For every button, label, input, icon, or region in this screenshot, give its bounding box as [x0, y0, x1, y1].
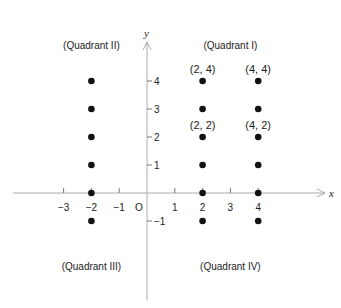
x-tick-label: 1 — [172, 202, 178, 213]
origin-label: O — [135, 202, 143, 213]
ticks: O−3−2−112344321−1 — [58, 76, 262, 227]
quadrant-label: (Quadrant IV) — [200, 261, 261, 272]
point-label: (2, 4) — [190, 63, 216, 75]
data-point — [255, 190, 262, 197]
y-axis-label: y — [143, 27, 149, 39]
data-point — [255, 106, 262, 113]
data-point — [199, 190, 206, 197]
data-point — [88, 190, 95, 197]
data-point — [88, 162, 95, 169]
y-tick-label: 2 — [154, 132, 160, 143]
point-label: (4, 4) — [245, 63, 271, 75]
data-point — [88, 218, 95, 225]
data-point — [88, 106, 95, 113]
x-tick-label: 3 — [228, 202, 234, 213]
x-axis-label: x — [328, 187, 334, 199]
quadrant-label: (Quadrant III) — [62, 261, 121, 272]
quadrant-label: (Quadrant I) — [203, 40, 257, 51]
data-point — [255, 134, 262, 141]
x-tick-label: −3 — [58, 202, 70, 213]
data-point — [199, 162, 206, 169]
data-point — [199, 218, 206, 225]
data-point — [199, 106, 206, 113]
data-point — [199, 134, 206, 141]
coordinate-plane-chart: xy O−3−2−112344321−1 (2, 4)(4, 4)(2, 2)(… — [0, 0, 341, 308]
data-point — [255, 218, 262, 225]
data-point — [88, 78, 95, 85]
y-tick-label: 4 — [154, 76, 160, 87]
data-point — [88, 134, 95, 141]
data-point — [255, 78, 262, 85]
labels: (2, 4)(4, 4)(2, 2)(4, 2)(Quadrant II)(Qu… — [62, 40, 271, 272]
data-point — [199, 78, 206, 85]
axes: xy — [13, 27, 334, 300]
y-tick-label: −1 — [154, 216, 166, 227]
x-tick-label: −1 — [113, 202, 125, 213]
y-tick-label: 3 — [154, 104, 160, 115]
x-tick-label: −2 — [86, 202, 98, 213]
x-tick-label: 4 — [255, 202, 261, 213]
x-tick-label: 2 — [200, 202, 206, 213]
data-point — [255, 162, 262, 169]
point-label: (2, 2) — [190, 119, 216, 131]
y-tick-label: 1 — [154, 160, 160, 171]
point-label: (4, 2) — [245, 119, 271, 131]
quadrant-label: (Quadrant II) — [63, 40, 120, 51]
